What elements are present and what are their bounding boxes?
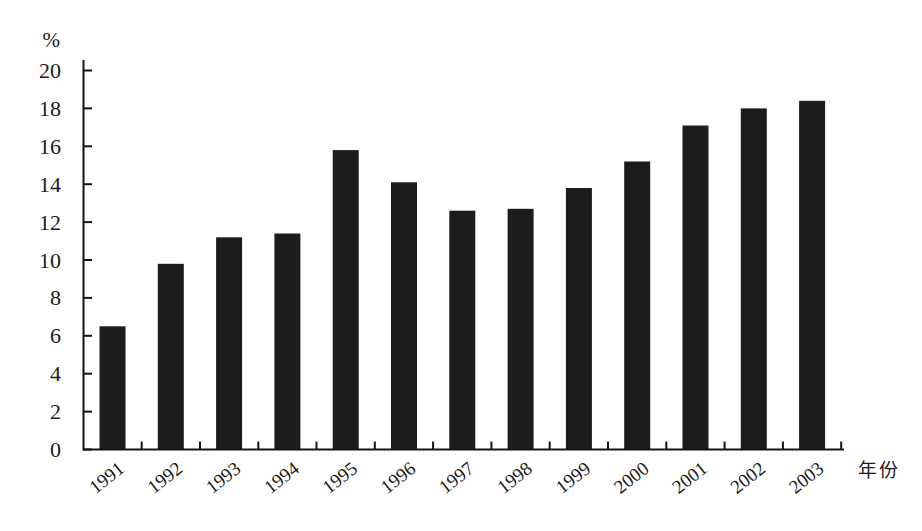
y-axis-unit-label: % <box>20 30 60 51</box>
x-tick-label-1996: 1996 <box>377 458 420 498</box>
y-tick-label-16: 16 <box>39 134 61 159</box>
x-tick-label-1992: 1992 <box>143 458 186 498</box>
y-tick-label-18: 18 <box>39 96 61 121</box>
x-tick-label-2003: 2003 <box>785 458 828 498</box>
y-tick-label-14: 14 <box>39 172 61 197</box>
y-tick-label-0: 0 <box>50 437 61 462</box>
bar-2000 <box>624 162 650 450</box>
bar-1999 <box>566 188 592 450</box>
bar-1995 <box>333 150 359 449</box>
y-tick-label-12: 12 <box>39 210 61 235</box>
bar-1997 <box>449 211 475 450</box>
y-tick-label-2: 2 <box>50 399 61 424</box>
x-tick-label-1993: 1993 <box>202 458 245 498</box>
bar-chart: 0246810121416182019911992199319941995199… <box>0 0 922 531</box>
x-axis-title: 年份 <box>858 461 900 480</box>
bar-2003 <box>799 101 825 450</box>
y-tick-label-20: 20 <box>39 58 61 83</box>
bar-1991 <box>100 326 126 449</box>
x-tick-label-1999: 1999 <box>551 458 594 498</box>
y-tick-label-8: 8 <box>50 285 61 310</box>
y-tick-label-4: 4 <box>50 361 61 386</box>
x-tick-label-1995: 1995 <box>318 458 361 498</box>
y-tick-label-10: 10 <box>39 248 61 273</box>
x-tick-label-2000: 2000 <box>610 458 653 498</box>
bar-1994 <box>274 234 300 450</box>
bar-2002 <box>741 108 767 449</box>
bar-chart-figure: 0246810121416182019911992199319941995199… <box>0 0 922 531</box>
y-tick-label-6: 6 <box>50 323 61 348</box>
bar-1992 <box>158 264 184 450</box>
bar-1998 <box>508 209 534 450</box>
x-tick-label-1998: 1998 <box>493 458 536 498</box>
x-tick-label-2002: 2002 <box>726 458 769 498</box>
bar-2001 <box>683 126 709 450</box>
x-tick-label-1997: 1997 <box>435 458 478 498</box>
bar-1996 <box>391 182 417 449</box>
x-tick-label-1991: 1991 <box>85 458 128 498</box>
bar-1993 <box>216 237 242 449</box>
x-tick-label-2001: 2001 <box>668 458 711 498</box>
x-tick-label-1994: 1994 <box>260 457 303 497</box>
